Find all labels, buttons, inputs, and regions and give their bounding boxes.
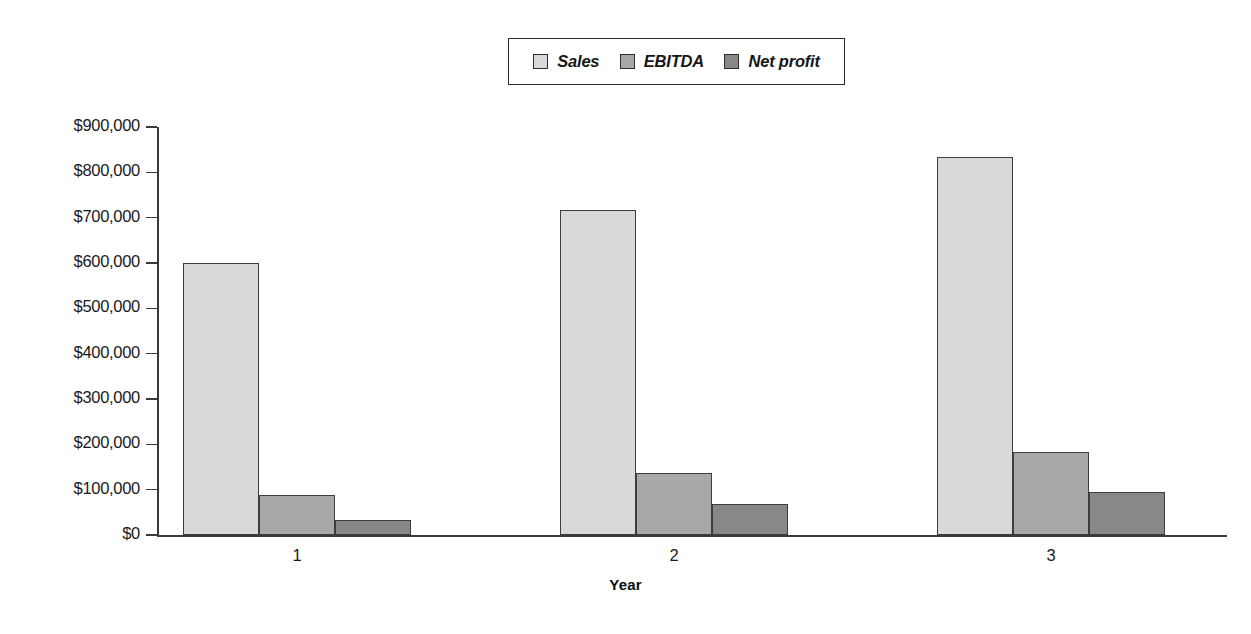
y-axis-tick — [146, 489, 157, 490]
y-axis-line — [157, 127, 159, 536]
bar-ebitda-year-2 — [636, 473, 712, 535]
y-axis-tick — [146, 398, 157, 399]
y-axis-tick-label: $100,000 — [45, 479, 140, 498]
legend-item-sales: Sales — [533, 52, 599, 71]
legend-item-net-profit: Net profit — [724, 52, 819, 71]
bar-sales-year-2 — [560, 210, 636, 535]
x-axis-tick-label: 1 — [237, 546, 357, 565]
y-axis-tick-label: $600,000 — [45, 252, 140, 271]
legend-item-ebitda: EBITDA — [620, 52, 704, 71]
bar-sales-year-1 — [183, 263, 259, 535]
x-axis-tick-label: 3 — [991, 546, 1111, 565]
bar-chart: Sales EBITDA Net profit $0$100,000$200,0… — [0, 0, 1251, 634]
legend-swatch-ebitda — [620, 54, 635, 69]
x-axis-tick-label: 2 — [614, 546, 734, 565]
y-axis-tick — [146, 217, 157, 218]
legend-swatch-sales — [533, 54, 548, 69]
x-axis-title: Year — [0, 576, 1251, 593]
chart-legend: Sales EBITDA Net profit — [508, 38, 845, 85]
legend-label-ebitda: EBITDA — [644, 52, 704, 71]
legend-label-net-profit: Net profit — [748, 52, 819, 71]
y-axis-tick — [146, 444, 157, 445]
legend-swatch-net-profit — [724, 54, 739, 69]
y-axis-tick-label: $200,000 — [45, 433, 140, 452]
y-axis-tick-label: $700,000 — [45, 207, 140, 226]
bar-ebitda-year-3 — [1013, 452, 1089, 535]
legend-label-sales: Sales — [557, 52, 599, 71]
y-axis-tick-label: $0 — [45, 524, 140, 543]
y-axis-tick — [146, 262, 157, 263]
y-axis-tick — [146, 172, 157, 173]
y-axis-tick — [146, 126, 157, 127]
y-axis-tick-label: $500,000 — [45, 297, 140, 316]
y-axis-tick-label: $900,000 — [45, 116, 140, 135]
bar-net-profit-year-3 — [1089, 492, 1165, 535]
y-axis-tick-label: $400,000 — [45, 343, 140, 362]
bar-net-profit-year-2 — [712, 504, 788, 535]
y-axis-tick — [146, 353, 157, 354]
y-axis-tick-label: $800,000 — [45, 161, 140, 180]
bar-sales-year-3 — [937, 157, 1013, 535]
bar-ebitda-year-1 — [259, 495, 335, 535]
bar-net-profit-year-1 — [335, 520, 411, 535]
x-axis-line — [157, 535, 1227, 537]
y-axis-tick — [146, 308, 157, 309]
y-axis-tick — [146, 534, 157, 535]
y-axis-tick-label: $300,000 — [45, 388, 140, 407]
